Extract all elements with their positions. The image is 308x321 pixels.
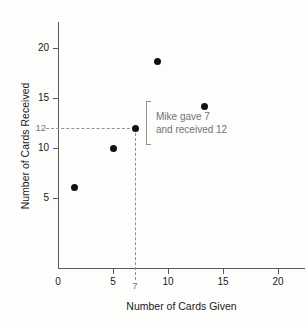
y-tick-10 [53, 148, 58, 149]
highlight-guide-horizontal [46, 128, 135, 129]
y-tick-15 [53, 98, 58, 99]
scatter-chart: 5101520 05101520 Number of Cards Receive… [0, 0, 308, 321]
x-tick-label-10: 10 [156, 276, 180, 287]
x-tick-label-20: 20 [266, 276, 290, 287]
highlight-annotation: Mike gave 7 and received 12 [146, 101, 227, 145]
x-tick-10 [168, 269, 169, 274]
data-point [154, 58, 161, 65]
y-axis-line [58, 22, 59, 269]
annotation-line-2: and received 12 [156, 123, 227, 136]
highlight-x-callout-label: 7 [123, 280, 147, 291]
x-axis-title: Number of Cards Given [58, 300, 305, 312]
annotation-line-1: Mike gave 7 [156, 110, 227, 123]
data-point [110, 145, 117, 152]
data-point [71, 184, 78, 191]
highlight-y-callout-label: 12 [22, 122, 46, 133]
x-tick-20 [278, 269, 279, 274]
y-tick-5 [53, 198, 58, 199]
data-point [132, 125, 139, 132]
y-tick-20 [53, 48, 58, 49]
annotation-bracket-icon [146, 101, 151, 145]
annotation-text: Mike gave 7 and received 12 [156, 110, 227, 136]
x-tick-label-15: 15 [211, 276, 235, 287]
y-axis-title: Number of Cards Received [19, 51, 31, 241]
x-tick-5 [113, 269, 114, 274]
highlight-guide-vertical [135, 128, 136, 280]
x-tick-label-5: 5 [101, 276, 125, 287]
x-tick-15 [223, 269, 224, 274]
x-tick-label-0: 0 [46, 276, 70, 287]
x-axis-line [58, 268, 305, 269]
